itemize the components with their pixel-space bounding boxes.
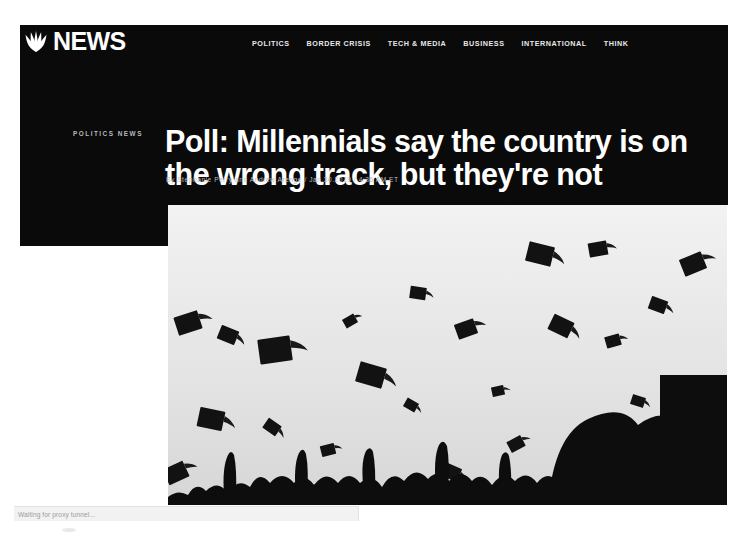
article-hero-block: NEWS POLITICS BORDER CRISIS TECH & MEDIA… (20, 25, 728, 205)
nav-item-tech-and-media[interactable]: TECH & MEDIA (388, 39, 447, 49)
nav-item-border-crisis[interactable]: BORDER CRISIS (307, 39, 371, 49)
browser-page: NEWS POLITICS BORDER CRISIS TECH & MEDIA… (0, 0, 746, 536)
nav-item-think[interactable]: THINK (604, 39, 629, 49)
nbc-peacock-icon (24, 30, 48, 52)
brand-wordmark: NEWS (53, 30, 126, 52)
nbc-news-logo[interactable]: NEWS (24, 30, 126, 52)
article-byline: By Stephanie Perry and Andrew Arenge / J… (166, 175, 399, 185)
article-hero-image (168, 205, 727, 505)
status-bar-text: Waiting for proxy tunnel... (18, 510, 95, 519)
site-masthead: NEWS POLITICS BORDER CRISIS TECH & MEDIA… (20, 25, 728, 63)
nav-item-business[interactable]: BUSINESS (463, 39, 504, 49)
browser-status-bar: Waiting for proxy tunnel... (14, 506, 359, 521)
nav-item-international[interactable]: INTERNATIONAL (521, 39, 586, 49)
nav-item-politics[interactable]: POLITICS (252, 39, 290, 49)
page-bottom-area (0, 521, 746, 536)
article-kicker[interactable]: POLITICS NEWS (73, 129, 143, 138)
article-hero-block-extension (20, 205, 169, 246)
page-artifact (62, 528, 76, 532)
primary-navigation: POLITICS BORDER CRISIS TECH & MEDIA BUSI… (252, 39, 629, 49)
